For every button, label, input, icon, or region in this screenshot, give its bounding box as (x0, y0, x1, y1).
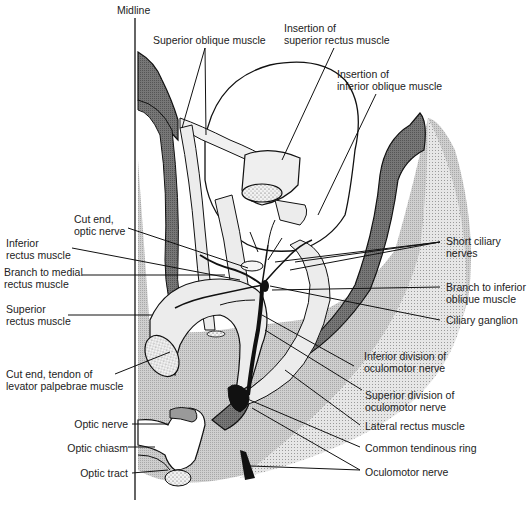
label-cut-end-optic-nerve: Cut end, optic nerve (74, 213, 125, 237)
label-inferior-division-oculomotor: Inferior division of oculomotor nerve (364, 350, 446, 374)
label-branch-medial-rectus: Branch to medial rectus muscle (4, 266, 83, 290)
label-cut-end-levator: Cut end, tendon of levator palpebrae mus… (6, 368, 123, 392)
label-midline: Midline (117, 4, 150, 16)
label-insertion-inferior-oblique: Insertion of inferior oblique muscle (337, 68, 442, 92)
label-lateral-rectus-muscle: Lateral rectus muscle (365, 420, 465, 432)
label-branch-inferior-oblique: Branch to inferior oblique muscle (446, 281, 526, 305)
ciliary-ganglion-shape (261, 280, 269, 292)
optic-nerve-cut-end (241, 261, 263, 271)
label-optic-nerve: Optic nerve (60, 418, 128, 430)
label-superior-oblique-muscle: Superior oblique muscle (153, 34, 266, 46)
label-common-tendinous-ring: Common tendinous ring (365, 442, 476, 454)
label-short-ciliary-nerves: Short ciliary nerves (446, 235, 501, 259)
label-inferior-rectus-muscle: Inferior rectus muscle (6, 237, 71, 261)
label-superior-division-oculomotor: Superior division of oculomotor nerve (365, 389, 454, 413)
label-superior-rectus-muscle: Superior rectus muscle (6, 303, 71, 327)
label-ciliary-ganglion: Ciliary ganglion (446, 314, 518, 326)
label-oculomotor-nerve: Oculomotor nerve (365, 466, 448, 478)
label-optic-chiasm: Optic chiasm (50, 442, 128, 454)
label-insertion-superior-rectus: Insertion of superior rectus muscle (284, 22, 390, 46)
label-optic-tract: Optic tract (60, 467, 128, 479)
